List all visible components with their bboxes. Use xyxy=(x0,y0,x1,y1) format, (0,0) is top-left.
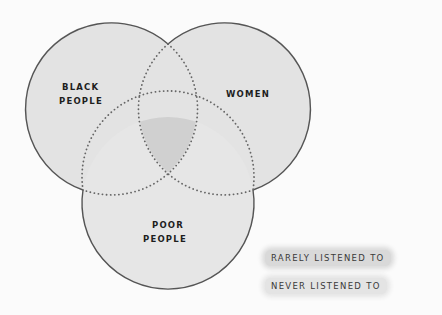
legend-rarely-listened-to: RARELY LISTENED TO xyxy=(265,250,391,266)
label-women: WOMEN xyxy=(226,89,270,99)
venn-diagram: BLACK PEOPLE WOMEN POOR PEOPLE xyxy=(0,0,442,315)
legend-never-listened-to: NEVER LISTENED TO xyxy=(265,278,387,294)
circle-fills xyxy=(25,22,311,289)
label-poor-line1: POOR xyxy=(152,220,184,230)
label-black-line1: BLACK xyxy=(62,82,99,92)
label-black-line2: PEOPLE xyxy=(59,96,103,106)
label-poor-line2: PEOPLE xyxy=(143,234,187,244)
